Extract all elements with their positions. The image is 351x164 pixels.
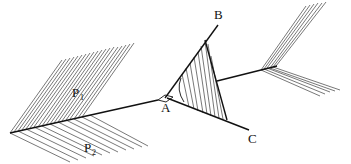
label-a: A xyxy=(161,100,171,115)
label-p1-sub: 1 xyxy=(80,93,84,102)
label-b: B xyxy=(214,7,223,22)
ray-ac xyxy=(167,98,249,130)
label-c: C xyxy=(248,131,257,146)
angle-bac-hatching xyxy=(182,41,223,119)
label-p2-sub: 2 xyxy=(92,148,96,157)
label-p2: P xyxy=(84,140,91,155)
ray-ab xyxy=(165,25,218,98)
label-p1: P xyxy=(72,85,79,100)
dihedral-angle-diagram: A B C P 1 P 2 xyxy=(0,0,351,164)
rays xyxy=(165,25,249,130)
right-planes-hatching xyxy=(261,2,340,96)
